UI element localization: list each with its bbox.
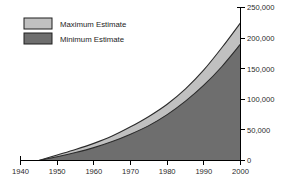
x-tick-label: 1940	[12, 167, 29, 176]
chart-canvas: 050,000100,000150,000200,000250,000 1940…	[0, 0, 289, 185]
legend-label-maximum: Maximum Estimate	[60, 20, 126, 29]
x-tick-label: 1980	[159, 167, 176, 176]
area-chart: 050,000100,000150,000200,000250,000 1940…	[0, 0, 289, 185]
y-tick-label: 0	[247, 156, 251, 165]
x-tick-label: 1990	[195, 167, 212, 176]
y-tick-label: 50,000	[247, 126, 270, 135]
y-tick-label: 100,000	[247, 95, 274, 104]
legend-label-minimum: Minimum Estimate	[60, 35, 124, 44]
x-tick-label: 1950	[49, 167, 66, 176]
x-tick-label: 1970	[122, 167, 139, 176]
y-tick-label: 200,000	[247, 34, 274, 43]
x-tick-label: 2000	[232, 167, 249, 176]
legend-swatch-minimum	[24, 33, 52, 44]
x-tick-label: 1960	[85, 167, 102, 176]
y-tick-label: 250,000	[247, 3, 274, 12]
legend-swatch-maximum	[24, 18, 52, 29]
y-tick-label: 150,000	[247, 65, 274, 74]
